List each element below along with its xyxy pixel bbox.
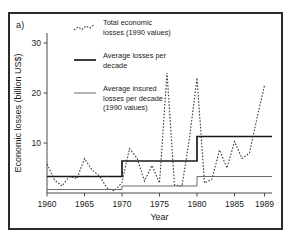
legend-swatch-total-economic-losses — [74, 25, 94, 31]
x-tick-label: 1965 — [75, 199, 94, 209]
figure-container: a) 1020301960196519701975198019851989Yea… — [0, 0, 293, 241]
series-average-losses-per-decade — [47, 137, 272, 177]
legend-label-average-losses-per-decade: decade — [103, 61, 127, 70]
chart-plot: 1020301960196519701975198019851989YearEc… — [0, 0, 293, 241]
legend-label-average-insured-losses-per-decade: (1990 values) — [103, 103, 148, 112]
legend-label-total-economic-losses: Total economic — [103, 18, 153, 27]
x-tick-label: 1970 — [113, 199, 132, 209]
y-axis-title: Economic losses (billion US$) — [13, 53, 23, 172]
x-axis-title: Year — [150, 212, 168, 222]
legend-label-total-economic-losses: losses (1990 values) — [103, 28, 171, 37]
y-tick-label: 10 — [32, 138, 42, 148]
legend-label-average-insured-losses-per-decade: Average insured — [103, 84, 157, 93]
x-tick-label: 1975 — [150, 199, 169, 209]
x-tick-label: 1980 — [188, 199, 207, 209]
x-tick-label: 1989 — [255, 199, 274, 209]
x-tick-label: 1960 — [38, 199, 57, 209]
y-tick-label: 20 — [32, 88, 42, 98]
y-tick-label: 30 — [32, 38, 42, 48]
legend-label-average-insured-losses-per-decade: losses per decade — [103, 94, 163, 103]
x-tick-label: 1985 — [225, 199, 244, 209]
legend-label-average-losses-per-decade: Average losses per — [103, 51, 167, 60]
